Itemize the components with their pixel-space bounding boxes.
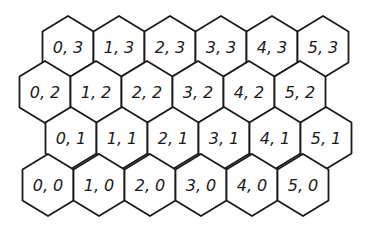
hex-coordinate-label: 3, 1 <box>209 129 240 148</box>
hex-coordinate-label: 2, 1 <box>158 129 189 148</box>
hex-coordinate-label: 1, 2 <box>81 83 112 102</box>
hex-coordinate-label: 4, 0 <box>237 176 268 195</box>
hex-coordinate-label: 1, 3 <box>104 38 135 57</box>
hex-coordinate-label: 3, 0 <box>186 176 217 195</box>
hex-coordinate-label: 1, 1 <box>107 129 138 148</box>
hex-coordinate-label: 3, 2 <box>183 83 214 102</box>
hex-coordinate-label: 1, 0 <box>84 176 115 195</box>
hex-coordinate-label: 0, 1 <box>56 129 87 148</box>
hex-coordinate-label: 0, 3 <box>53 38 84 57</box>
hex-coordinate-label: 4, 2 <box>234 83 265 102</box>
hex-coordinate-label: 5, 0 <box>288 176 319 195</box>
hex-coordinate-label: 5, 3 <box>308 38 339 57</box>
hex-grid-diagram: 0, 31, 32, 33, 34, 35, 30, 21, 22, 23, 2… <box>0 0 370 226</box>
hex-coordinate-label: 4, 1 <box>260 129 291 148</box>
hex-coordinate-label: 0, 2 <box>30 83 61 102</box>
hex-coordinate-label: 2, 0 <box>135 176 166 195</box>
hex-coordinate-label: 4, 3 <box>257 38 288 57</box>
hex-coordinate-label: 0, 0 <box>33 176 64 195</box>
hex-coordinate-label: 3, 3 <box>206 38 237 57</box>
hex-coordinate-label: 2, 2 <box>132 83 163 102</box>
hex-coordinate-label: 2, 3 <box>155 38 186 57</box>
hex-coordinate-label: 5, 1 <box>311 129 342 148</box>
hex-coordinate-label: 5, 2 <box>285 83 316 102</box>
